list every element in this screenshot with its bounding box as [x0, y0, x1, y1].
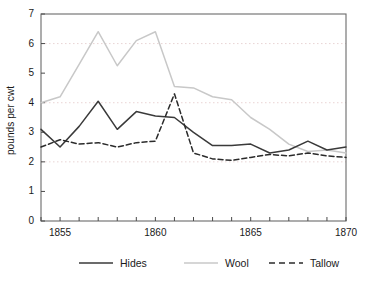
x-tick-label: 1865 [231, 227, 271, 238]
chart-figure: pounds per cwt 01234567 1855186018651870… [0, 0, 381, 282]
y-tick-label: 5 [20, 67, 34, 78]
series-line-hides [41, 101, 346, 153]
legend-label-tallow: Tallow [310, 258, 339, 268]
x-tick-label: 1860 [135, 227, 175, 238]
series-line-tallow [41, 94, 346, 161]
y-tick-label: 7 [20, 8, 34, 19]
y-tick-label: 6 [20, 38, 34, 49]
legend-item-wool: Wool [183, 256, 249, 270]
x-tick-label: 1870 [326, 227, 366, 238]
legend-label-hides: Hides [120, 258, 147, 268]
legend-line-wool-icon [183, 258, 219, 268]
legend-line-hides-icon [78, 258, 114, 268]
legend-item-tallow: Tallow [268, 256, 339, 270]
legend-label-wool: Wool [225, 258, 249, 268]
legend-item-hides: Hides [78, 256, 147, 270]
y-tick-label: 2 [20, 156, 34, 167]
y-tick-label: 4 [20, 97, 34, 108]
line-chart-plot [0, 0, 381, 282]
y-tick-label: 1 [20, 185, 34, 196]
y-tick-label: 3 [20, 126, 34, 137]
chart-legend: Hides Wool Tallow [0, 252, 381, 276]
series-line-wool [41, 32, 346, 153]
legend-line-tallow-icon [268, 258, 304, 268]
x-tick-label: 1855 [40, 227, 80, 238]
y-tick-label: 0 [20, 215, 34, 226]
